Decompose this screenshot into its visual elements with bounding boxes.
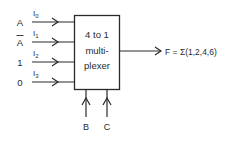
mux-title-line2: multi- xyxy=(85,45,108,56)
select-label: C xyxy=(104,122,111,132)
select-c: C xyxy=(103,89,111,132)
input-source-label: 0 xyxy=(17,77,22,88)
output-function-label: F = Σ(1,2,4,6) xyxy=(165,47,217,57)
input-source-label: A xyxy=(17,37,24,48)
input-i1: A I1 xyxy=(17,29,75,48)
input-i0: A I0 xyxy=(17,9,74,28)
input-i2: 1 I2 xyxy=(17,49,74,68)
select-b: B xyxy=(82,89,90,132)
pin-label: I3 xyxy=(33,69,39,79)
input-i3: 0 I3 xyxy=(17,69,74,88)
mux-title-line3: plexer xyxy=(84,60,110,71)
mux-title-line1: 4 to 1 xyxy=(85,29,109,40)
input-source-label: 1 xyxy=(17,57,22,68)
pin-label: I2 xyxy=(33,49,39,59)
pin-label: I0 xyxy=(33,9,39,19)
multiplexer-diagram: 4 to 1 multi- plexer A I0 A I1 1 I2 0 I3… xyxy=(0,0,241,141)
select-label: B xyxy=(83,122,89,132)
pin-label: I1 xyxy=(33,29,39,39)
output-f: F = Σ(1,2,4,6) xyxy=(119,47,217,57)
input-source-label: A xyxy=(17,17,24,28)
